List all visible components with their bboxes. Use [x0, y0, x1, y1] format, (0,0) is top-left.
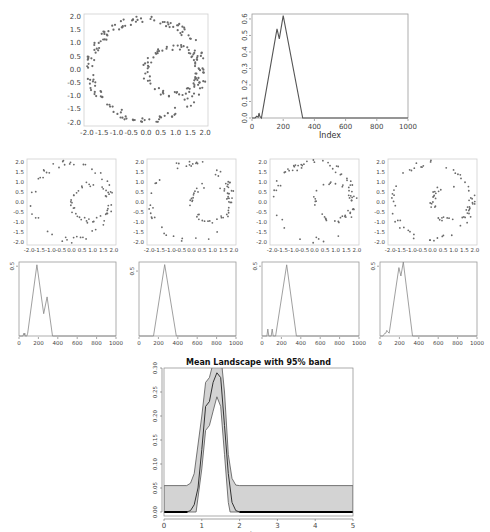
data-point [94, 81, 96, 83]
data-point [183, 45, 185, 47]
data-point [344, 216, 346, 218]
data-point [356, 197, 358, 199]
data-point [341, 186, 343, 188]
data-point [337, 166, 339, 168]
data-point [120, 20, 122, 22]
x-tick-label: 1.5 [99, 247, 108, 253]
data-point [64, 164, 66, 166]
data-point [189, 199, 191, 201]
y-tick-label: -1.5 [374, 229, 385, 235]
data-point [193, 86, 195, 88]
x-tick-label: -1.0 [288, 247, 299, 253]
x-tick-label: 200 [33, 340, 44, 346]
x-tick-label: 800 [370, 123, 383, 131]
x-tick-label: 0.5 [321, 247, 330, 253]
data-point [226, 198, 228, 200]
y-tick-label: 0.5 [241, 30, 249, 41]
data-point [342, 184, 344, 186]
y-tick-label: -0.5 [256, 209, 267, 215]
data-point [225, 183, 227, 185]
y-tick-label: 0.6 [241, 13, 249, 25]
data-point [276, 180, 278, 182]
y-tick-label: 0.0 [241, 112, 249, 123]
data-point [93, 93, 95, 95]
data-point [399, 227, 401, 229]
data-point [469, 206, 471, 208]
data-point [174, 107, 176, 109]
data-point [167, 112, 169, 114]
scatter-2-panel: -2.0-1.5-1.0-0.50.00.51.01.52.0-2.0-1.5-… [125, 155, 240, 257]
data-point [102, 224, 104, 226]
x-tick-label: 0.5 [155, 129, 166, 137]
data-point [467, 206, 469, 208]
data-point [189, 164, 191, 166]
data-point [181, 94, 183, 96]
data-point [313, 196, 315, 198]
x-tick-label: 5 [351, 522, 355, 530]
x-tick-label: 800 [334, 340, 345, 346]
data-point [193, 59, 195, 61]
data-point [95, 95, 97, 97]
data-point [92, 184, 94, 186]
data-point [105, 213, 107, 215]
x-tick-label: 2.0 [110, 247, 119, 253]
data-point [86, 220, 88, 222]
data-point [297, 165, 299, 167]
y-tick-label: 1.5 [135, 169, 144, 175]
data-point [94, 172, 96, 174]
data-point [177, 167, 179, 169]
y-tick-label: 0.5 [9, 261, 15, 270]
data-point [103, 31, 105, 33]
data-point [159, 179, 161, 181]
data-point [93, 42, 95, 44]
data-point [227, 192, 229, 194]
data-point [280, 185, 282, 187]
data-point [190, 105, 192, 107]
data-point [105, 196, 107, 198]
data-point [190, 38, 192, 40]
landscape-1-panel: 020040060080010000.5 [5, 258, 120, 350]
x-tick-label: -1.5 [34, 247, 45, 253]
data-point [326, 220, 328, 222]
data-point [184, 99, 186, 101]
data-point [474, 201, 476, 203]
data-point [134, 119, 136, 121]
data-point [87, 78, 89, 80]
data-point [48, 172, 50, 174]
data-point [276, 214, 278, 216]
data-point [176, 162, 178, 164]
data-point [196, 187, 198, 189]
data-point [194, 49, 196, 51]
data-point [228, 207, 230, 209]
data-point [76, 236, 78, 238]
data-point [80, 237, 82, 239]
data-point [453, 169, 455, 171]
data-point [95, 229, 97, 231]
data-point [71, 211, 73, 213]
y-tick-label: -0.5 [13, 209, 24, 215]
data-point [103, 220, 105, 222]
y-tick-label: 1.0 [258, 179, 267, 185]
data-point [174, 91, 176, 93]
scatter-3-plot: -2.0-1.5-1.0-0.50.00.51.01.52.0-2.0-1.5-… [248, 155, 363, 257]
data-point [119, 116, 121, 118]
data-point [100, 215, 102, 217]
data-point [112, 106, 114, 108]
x-tick-label: 1000 [109, 340, 123, 346]
data-point [122, 25, 124, 27]
data-point [186, 106, 188, 108]
data-point [179, 32, 181, 34]
data-point [170, 22, 172, 24]
data-point [287, 168, 289, 170]
data-point [201, 87, 203, 89]
data-point [186, 46, 188, 48]
data-point [178, 163, 180, 165]
x-tick-label: 600 [315, 340, 326, 346]
y-tick-label: 2.0 [15, 159, 24, 165]
data-point [207, 220, 209, 222]
data-point [203, 187, 205, 189]
data-point [351, 216, 353, 218]
data-point [112, 111, 114, 113]
x-tick-label: 3 [275, 522, 279, 530]
data-point [155, 52, 157, 54]
